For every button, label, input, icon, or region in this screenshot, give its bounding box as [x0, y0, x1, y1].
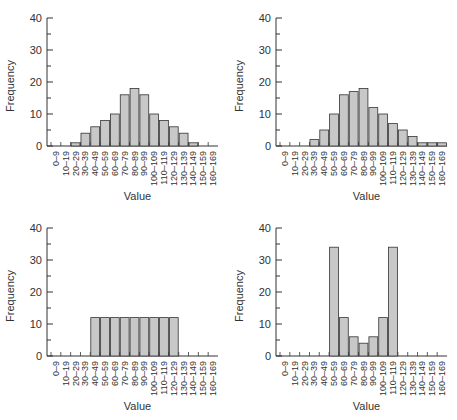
- histogram-bar: [379, 114, 388, 146]
- histogram-bar: [91, 318, 100, 356]
- histogram-svg: 0102030400–910–1920–2930–3940–4950–5960–…: [229, 0, 457, 205]
- x-tick-label: 90–99: [368, 361, 378, 386]
- x-tick-label: 30–39: [80, 361, 90, 386]
- histogram-top-right: 0102030400–910–1920–2930–3940–4950–5960–…: [229, 0, 457, 205]
- x-tick-label: 90–99: [139, 151, 149, 176]
- histogram-bar: [339, 318, 348, 356]
- x-tick-label: 110–119: [388, 361, 398, 395]
- histogram-bar: [438, 143, 447, 146]
- histogram-bar: [130, 318, 139, 356]
- histogram-bar: [81, 133, 90, 146]
- x-tick-label: 30–39: [80, 151, 90, 176]
- y-tick-label: 30: [30, 254, 42, 266]
- x-axis-label: Value: [353, 190, 380, 202]
- x-tick-label: 100–109: [149, 361, 159, 396]
- y-tick-label: 0: [265, 140, 271, 152]
- x-tick-label: 10–19: [290, 361, 300, 386]
- histogram-bar: [101, 318, 110, 356]
- x-tick-label: 120–129: [169, 361, 179, 396]
- x-tick-label: 130–139: [179, 151, 189, 186]
- histogram-bar: [140, 95, 149, 146]
- y-axis-label: Frequency: [233, 270, 245, 322]
- x-tick-label: 0–9: [280, 151, 290, 166]
- x-tick-label: 130–139: [179, 361, 189, 396]
- y-tick-label: 40: [259, 222, 271, 234]
- y-tick-label: 0: [36, 350, 42, 362]
- histogram-bar: [330, 247, 339, 356]
- x-tick-label: 40–49: [319, 361, 329, 386]
- x-tick-label: 50–59: [100, 361, 110, 386]
- x-tick-label: 140–149: [188, 361, 198, 396]
- histogram-bar: [71, 143, 80, 146]
- histogram-svg: 0102030400–910–1920–2930–3940–4950–5960–…: [0, 210, 228, 415]
- x-tick-label: 30–39: [309, 151, 319, 176]
- x-tick-label: 10–19: [290, 151, 300, 176]
- histogram-bar: [169, 127, 178, 146]
- histogram-bar: [389, 124, 398, 146]
- histogram-bar: [179, 133, 188, 146]
- x-tick-label: 40–49: [90, 151, 100, 176]
- histogram-bar: [120, 95, 129, 146]
- x-axis-label: Value: [124, 190, 151, 202]
- histogram-bar: [160, 318, 169, 356]
- histogram-bar: [330, 114, 339, 146]
- x-tick-label: 150–159: [198, 151, 208, 186]
- x-tick-label: 120–129: [169, 151, 179, 186]
- histogram-bar: [349, 337, 358, 356]
- x-tick-label: 160–169: [437, 151, 447, 186]
- x-tick-label: 90–99: [139, 361, 149, 386]
- histogram-bottom-left: 0102030400–910–1920–2930–3940–4950–5960–…: [0, 210, 228, 415]
- x-tick-label: 100–109: [378, 361, 388, 396]
- y-tick-label: 10: [30, 108, 42, 120]
- y-tick-label: 0: [36, 140, 42, 152]
- x-tick-label: 50–59: [100, 151, 110, 176]
- y-tick-label: 40: [30, 222, 42, 234]
- y-tick-label: 0: [265, 350, 271, 362]
- x-tick-label: 40–49: [90, 361, 100, 386]
- histogram-bar: [320, 130, 329, 146]
- histogram-bar: [150, 114, 159, 146]
- y-tick-label: 20: [30, 76, 42, 88]
- x-tick-label: 120–129: [398, 151, 408, 186]
- histogram-bottom-right: 0102030400–910–1920–2930–3940–4950–5960–…: [229, 210, 457, 415]
- histogram-bar: [428, 143, 437, 146]
- x-tick-label: 80–89: [359, 151, 369, 176]
- x-tick-label: 150–159: [427, 361, 437, 396]
- histogram-bar: [150, 318, 159, 356]
- x-tick-label: 0–9: [51, 361, 61, 376]
- x-axis-label: Value: [124, 400, 151, 412]
- x-tick-label: 140–149: [417, 151, 427, 186]
- x-tick-label: 80–89: [130, 151, 140, 176]
- histogram-bar: [110, 114, 119, 146]
- y-tick-label: 10: [259, 108, 271, 120]
- x-tick-label: 70–79: [349, 151, 359, 176]
- histogram-top-left: 0102030400–910–1920–2930–3940–4950–5960–…: [0, 0, 228, 205]
- x-tick-label: 90–99: [368, 151, 378, 176]
- histogram-bar: [369, 337, 378, 356]
- x-tick-label: 110–119: [159, 361, 169, 395]
- x-tick-label: 0–9: [51, 151, 61, 166]
- x-tick-label: 10–19: [61, 151, 71, 176]
- y-tick-label: 30: [30, 44, 42, 56]
- y-tick-label: 20: [30, 286, 42, 298]
- histogram-bar: [359, 343, 368, 356]
- histogram-bar: [130, 88, 139, 146]
- x-tick-label: 130–139: [408, 361, 418, 396]
- histogram-bar: [189, 143, 198, 146]
- histogram-bar: [160, 120, 169, 146]
- y-axis-label: Frequency: [4, 270, 16, 322]
- histogram-svg: 0102030400–910–1920–2930–3940–4950–5960–…: [0, 0, 228, 205]
- y-tick-label: 30: [259, 254, 271, 266]
- histogram-bar: [379, 318, 388, 356]
- histogram-bar: [339, 95, 348, 146]
- histogram-bar: [91, 127, 100, 146]
- x-tick-label: 100–109: [378, 151, 388, 186]
- x-tick-label: 160–169: [208, 151, 218, 186]
- x-tick-label: 20–29: [71, 151, 81, 176]
- x-tick-label: 60–69: [339, 151, 349, 176]
- x-tick-label: 0–9: [280, 361, 290, 376]
- histogram-bar: [389, 247, 398, 356]
- histogram-bar: [398, 130, 407, 146]
- y-tick-label: 40: [30, 12, 42, 24]
- x-tick-label: 150–159: [198, 361, 208, 396]
